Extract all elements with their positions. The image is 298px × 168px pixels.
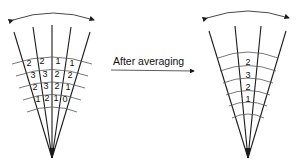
svg-text:2: 2 xyxy=(54,69,59,79)
averaging-arrow xyxy=(111,70,194,71)
svg-text:3: 3 xyxy=(42,69,47,79)
svg-text:2: 2 xyxy=(32,82,37,92)
svg-text:2: 2 xyxy=(39,56,44,66)
svg-text:2: 2 xyxy=(245,57,250,67)
beam-lines xyxy=(14,25,90,158)
averaging-label: After averaging xyxy=(113,55,184,67)
svg-text:1: 1 xyxy=(53,93,58,103)
after-values: 2 3 2 1 xyxy=(245,57,250,104)
svg-text:2: 2 xyxy=(245,82,250,92)
sweep-arc-arrow-right xyxy=(207,11,289,18)
svg-text:3: 3 xyxy=(30,70,35,80)
svg-text:3: 3 xyxy=(245,70,250,80)
svg-text:2: 2 xyxy=(44,93,49,103)
svg-text:1: 1 xyxy=(35,94,40,104)
after-fan: 2 3 2 1 xyxy=(207,11,289,158)
svg-text:2: 2 xyxy=(54,81,59,91)
svg-text:2: 2 xyxy=(67,70,72,80)
svg-text:1: 1 xyxy=(55,56,60,66)
svg-text:1: 1 xyxy=(69,58,74,68)
diagram-canvas: 2 2 1 1 3 3 2 2 2 3 2 1 1 2 1 0 xyxy=(0,0,298,168)
svg-text:2: 2 xyxy=(26,58,31,68)
svg-text:3: 3 xyxy=(43,81,48,91)
sweep-arc-arrow-left xyxy=(13,13,94,20)
before-fan: 2 2 1 1 3 3 2 2 2 3 2 1 1 2 1 0 xyxy=(12,13,94,158)
svg-text:1: 1 xyxy=(245,94,250,104)
svg-text:0: 0 xyxy=(62,94,67,104)
svg-text:1: 1 xyxy=(65,82,70,92)
